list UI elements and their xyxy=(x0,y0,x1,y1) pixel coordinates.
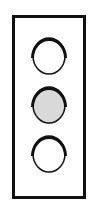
lamp-icon-top xyxy=(28,32,70,76)
lamp-top xyxy=(28,32,70,76)
lamp-middle xyxy=(28,81,70,125)
lamp-icon-bottom xyxy=(28,130,70,174)
lamp-bottom xyxy=(28,130,70,174)
lamp-icon-middle xyxy=(28,81,70,125)
